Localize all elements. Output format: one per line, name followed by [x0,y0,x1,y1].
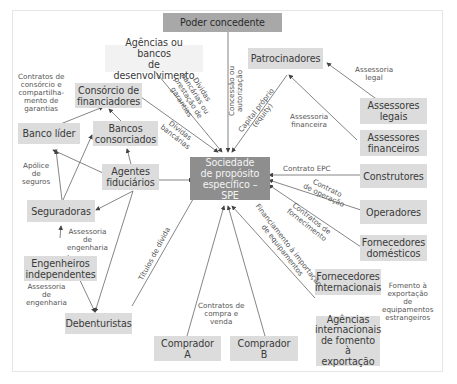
node-poder-concedente: Poder concedente [163,13,282,32]
edge-label-assessoria-engenharia-2: Assessoria de engenharia [26,283,67,307]
edge-label-fomento-exportacao: Fomento à exportação de equipamentos est… [382,282,433,322]
label-line: autorização [236,66,244,116]
node-label: de propósito [201,168,260,179]
node-label: exportação [322,357,375,368]
node-label: Engenheiros [31,258,89,269]
node-label: fiduciários [106,177,154,188]
node-label: consorciados [95,134,156,145]
node-comprador-b: Comprador B [230,336,298,361]
node-fornecedores-domesticos: Fornecedores domésticos [360,235,427,261]
label-line: seguros [22,178,50,186]
node-assessores-legais: Assessores legais [360,98,427,124]
node-label: Assessores [368,132,420,143]
label-line: legal [355,74,393,82]
node-label: específico – SPE [193,179,267,201]
label-line: financeira [290,121,328,129]
node-engenheiros-independentes: Engenheiros independentes [24,256,97,281]
node-label: Fornecedores [316,271,379,282]
edge-label-contrato-epc: Contrato EPC [283,165,331,173]
edge-label-assessoria-financeira: Assessoria financeira [290,113,328,129]
node-agencias-desenvolvimento: Agências ou bancos de desenvolvimento [105,45,203,72]
node-label: Agências ou bancos [108,37,200,59]
node-agencias-internacionais: Agências internacionais de fomento à exp… [316,316,380,366]
node-label: Fornecedores [362,237,425,248]
node-label: domésticos [367,248,421,259]
label-line: garantias [18,105,64,113]
node-consorcio-financiadores: Consórcio de financiadores [75,83,142,108]
node-label: Construtores [363,171,424,182]
node-label: Patrocinadores [251,53,321,64]
node-banco-lider: Banco líder [18,123,80,144]
node-assessores-financeiros: Assessores financeiros [360,130,427,156]
label-line: estrangeiros [382,314,433,322]
node-label: de fomento à [319,336,377,357]
node-patrocinadores: Patrocinadores [248,48,323,69]
label-line: venda [198,318,244,326]
node-label: independentes [25,269,95,280]
node-label: Operadores [366,207,421,218]
node-label: Poder concedente [180,17,265,28]
node-label: financeiros [368,143,419,154]
node-label: Debenturistas [65,318,131,329]
node-fornecedores-internacionais: Fornecedores internacionais [315,269,381,295]
edge-label-apolice: Apólice de seguros [22,162,50,186]
node-debenturistas: Debenturistas [65,313,132,334]
edge-label-concessao: Concessão ou autorização [228,66,244,116]
node-label: Sociedade [206,157,255,168]
edge-label-assessoria-legal: Assessoria legal [355,66,393,82]
node-label: Agentes [111,166,150,177]
edge-label-assessoria-engenharia-1: Assessoria de engenharia [67,228,108,252]
label-line: engenharia [26,299,67,307]
node-comprador-a: Comprador A [154,336,221,361]
node-label: Seguradoras [31,206,91,217]
node-label: Assessores [368,100,420,111]
node-bancos-consorciados: Bancos consorciados [93,121,158,146]
edge-label-contratos-compra: Contratos de compra e venda [198,302,244,326]
node-label: Bancos [108,123,142,134]
node-agentes-fiduciarios: Agentes fiduciários [102,164,159,190]
node-seguradoras: Seguradoras [27,200,95,222]
node-label: Banco líder [23,128,76,139]
node-label: Comprador A [157,338,218,360]
node-label: financiadores [77,96,140,107]
node-label: Comprador B [233,338,295,360]
node-label: Consórcio de [78,85,139,96]
node-label: legais [380,111,408,122]
label-line: engenharia [67,244,108,252]
node-operadores: Operadores [360,200,427,224]
node-spe: Sociedade de propósito específico – SPE [190,157,270,200]
node-construtores: Construtores [360,164,427,188]
edge-label-contratos-consorcio: Contratos de consórcio e compartilha- me… [18,73,64,113]
node-label: internacionais [315,282,381,293]
